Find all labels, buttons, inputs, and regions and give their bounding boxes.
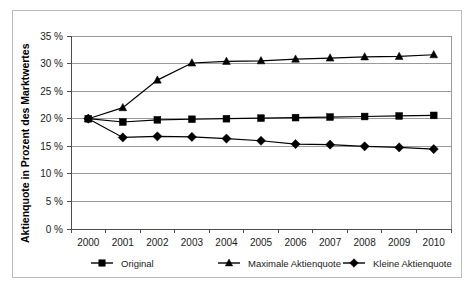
data-point-marker: [396, 113, 403, 120]
y-axis-title: Aktienquote in Prozent des Marktwertes: [19, 43, 31, 243]
legend-item-2[interactable]: Maximale Aktienquote: [218, 258, 341, 269]
series-triangle: [84, 50, 437, 121]
data-point-marker: [395, 143, 404, 152]
data-point-marker: [222, 134, 231, 143]
y-axis-tick-labels: 0 %5 %10 %15 %20 %25 %30 %35 %: [40, 31, 63, 235]
data-series: [84, 50, 439, 153]
data-point-marker: [119, 119, 126, 126]
data-point-marker: [258, 115, 265, 122]
y-tick-label: 15 %: [40, 141, 63, 152]
legend-label: Original: [121, 258, 154, 269]
legend-label: Maximale Aktienquote: [248, 258, 341, 269]
data-point-marker: [292, 114, 299, 121]
data-point-marker: [326, 140, 335, 149]
data-point-marker: [350, 259, 359, 268]
legend-item-3[interactable]: Kleine Aktienquote: [343, 258, 452, 269]
series-line: [88, 55, 433, 119]
data-point-marker: [291, 139, 300, 148]
x-tick-label: 2003: [181, 237, 204, 248]
legend-label: Kleine Aktienquote: [373, 258, 452, 269]
data-point-marker: [223, 115, 230, 122]
x-tick-label: 2002: [146, 237, 169, 248]
data-point-marker: [327, 114, 334, 121]
x-tick-label: 2010: [423, 237, 446, 248]
x-tick-label: 2005: [250, 237, 273, 248]
data-point-marker: [119, 103, 127, 110]
data-point-marker: [99, 260, 105, 266]
data-point-marker: [361, 113, 368, 120]
y-tick-label: 10 %: [40, 168, 63, 179]
y-axis-title-text: Aktienquote in Prozent des Marktwertes: [19, 43, 31, 243]
data-point-marker: [153, 76, 161, 83]
x-axis-tick-labels: 2000200120022003200420052006200720082009…: [77, 237, 445, 248]
x-tick-label: 2004: [215, 237, 238, 248]
data-point-marker: [430, 112, 437, 119]
x-tick-label: 2007: [319, 237, 342, 248]
data-point-marker: [430, 50, 438, 57]
data-point-marker: [187, 132, 196, 141]
chart-figure: Aktienquote in Prozent des Marktwertes 0…: [12, 10, 462, 278]
plot-area-frame: [71, 36, 451, 229]
y-tick-label: 25 %: [40, 86, 63, 97]
x-tick-label: 2006: [284, 237, 307, 248]
y-tick-label: 35 %: [40, 31, 63, 42]
x-tick-label: 2008: [354, 237, 377, 248]
data-point-marker: [256, 136, 265, 145]
x-axis-tick-marks: [71, 229, 451, 233]
data-point-marker: [153, 132, 162, 141]
y-tick-label: 30 %: [40, 58, 63, 69]
data-point-marker: [118, 133, 127, 142]
y-tick-label: 0 %: [46, 224, 63, 235]
data-point-marker: [154, 116, 161, 123]
y-tick-label: 5 %: [46, 196, 63, 207]
data-point-marker: [189, 116, 196, 123]
x-tick-label: 2009: [388, 237, 411, 248]
data-point-marker: [360, 142, 369, 151]
gridlines: [67, 36, 451, 229]
x-tick-label: 2000: [77, 237, 100, 248]
axis-lines: [71, 36, 451, 229]
y-tick-label: 20 %: [40, 113, 63, 124]
line-chart: Aktienquote in Prozent des Marktwertes 0…: [13, 11, 461, 277]
chart-legend: OriginalMaximale AktienquoteKleine Aktie…: [91, 258, 452, 269]
x-tick-label: 2001: [112, 237, 135, 248]
legend-item-1[interactable]: Original: [91, 258, 154, 269]
